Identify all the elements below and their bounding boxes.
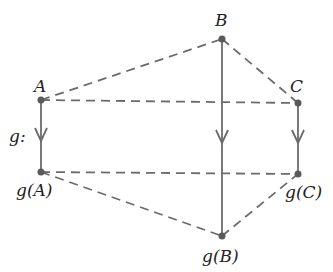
label-A: A	[32, 76, 46, 96]
label-map-g: g:	[9, 126, 26, 146]
node-gA	[38, 169, 45, 176]
edge-B-C	[222, 39, 298, 103]
label-gB: g(B)	[202, 246, 239, 266]
node-A	[38, 97, 45, 104]
edge-A-C	[41, 100, 298, 103]
node-gC	[295, 171, 302, 178]
label-gA: g(A)	[16, 180, 52, 200]
diagram-canvas: A B C g: g(A) g(B) g(C)	[0, 0, 333, 272]
edge-gA-gC	[41, 172, 298, 174]
edge-A-B	[41, 39, 222, 100]
node-gB	[219, 233, 226, 240]
node-B	[219, 36, 226, 43]
edge-gA-gB	[41, 172, 222, 236]
node-C	[295, 100, 302, 107]
label-C: C	[290, 76, 303, 96]
label-B: B	[214, 10, 228, 30]
label-gC: g(C)	[285, 182, 322, 202]
